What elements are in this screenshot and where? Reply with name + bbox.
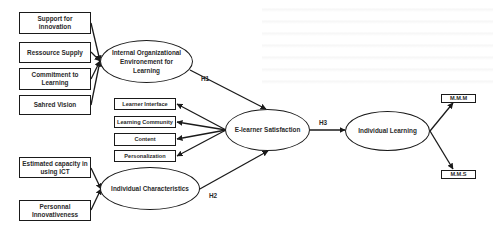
- edge-label-h2: H2: [209, 192, 217, 199]
- node-support-for-innovation: Support for innovation: [19, 12, 91, 34]
- edge-label-h1: H1: [201, 75, 209, 82]
- edge-vision-to-internal: [91, 61, 100, 105]
- node-resource-supply: Ressource Supply: [19, 42, 91, 63]
- node-personal-innovativeness: Personnal Innovativeness: [19, 200, 91, 221]
- node-individual-learning: Individual Learning: [345, 111, 430, 151]
- edge-h2: [198, 151, 268, 190]
- node-estimated-capacity-ict: Estimated capacity in using ICT: [19, 157, 91, 178]
- node-mms: M.M.S: [441, 170, 476, 179]
- node-mmm: M.M.M: [441, 94, 476, 103]
- node-learning-community: Learning Community: [114, 116, 176, 128]
- node-learner-interface: Learner Interface: [114, 98, 176, 110]
- edge-innovativeness-to-characteristics: [91, 189, 101, 210]
- node-elearner-satisfaction: E-learner Satisfaction: [225, 109, 310, 151]
- edge-learning-to-mmm: [430, 103, 453, 131]
- edge-label-h3: H3: [319, 119, 327, 126]
- edge-support-to-internal: [91, 23, 100, 61]
- node-internal-organizational-environment: Internal Organizational Environement for…: [100, 40, 193, 83]
- node-content: Content: [114, 133, 176, 146]
- node-personalization: Personalization: [114, 150, 176, 162]
- node-commitment-to-learning: Commitment to Learning: [19, 68, 91, 90]
- node-shared-vision: Sahred Vision: [19, 95, 91, 115]
- edge-learning-to-mms: [430, 131, 453, 169]
- node-individual-characteristics: Individual Characteristics: [100, 167, 200, 210]
